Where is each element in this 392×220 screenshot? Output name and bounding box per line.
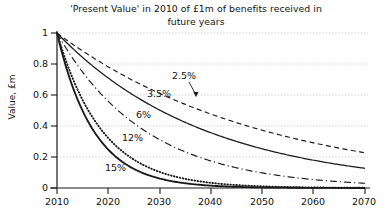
series-curve-2.5 [57, 33, 365, 153]
data-series-group [57, 33, 365, 188]
series-curve-15 [57, 33, 365, 188]
annotation-arrow-head [193, 92, 198, 97]
y-axis-ticks [51, 33, 57, 188]
gridlines [57, 33, 368, 157]
chart-plot-svg [0, 0, 392, 220]
annotation-arrow-2.5 [189, 82, 199, 97]
x-axis-ticks [57, 188, 365, 194]
present-value-chart-figure: 'Present Value' in 2010 of £1m of benefi… [0, 0, 392, 220]
series-curve-3.5 [57, 33, 365, 168]
series-curve-12 [57, 33, 365, 188]
